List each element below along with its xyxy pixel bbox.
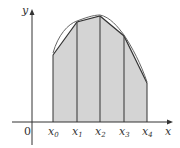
partition-label-2: x2 xyxy=(95,125,106,139)
partition-label-0: x0 xyxy=(48,125,59,139)
partition-label-1: x1 xyxy=(72,125,83,139)
trapezoid-diagram: y x 0 x0 x1 x2 x3 x4 xyxy=(0,0,180,148)
x-axis-label: x xyxy=(165,125,172,138)
partition-label-4: x4 xyxy=(142,125,153,139)
y-axis-arrow xyxy=(30,9,35,15)
origin-label: 0 xyxy=(24,125,31,138)
x-axis-arrow xyxy=(167,120,173,125)
y-axis-label: y xyxy=(21,4,29,17)
partition-label-3: x3 xyxy=(119,125,130,139)
